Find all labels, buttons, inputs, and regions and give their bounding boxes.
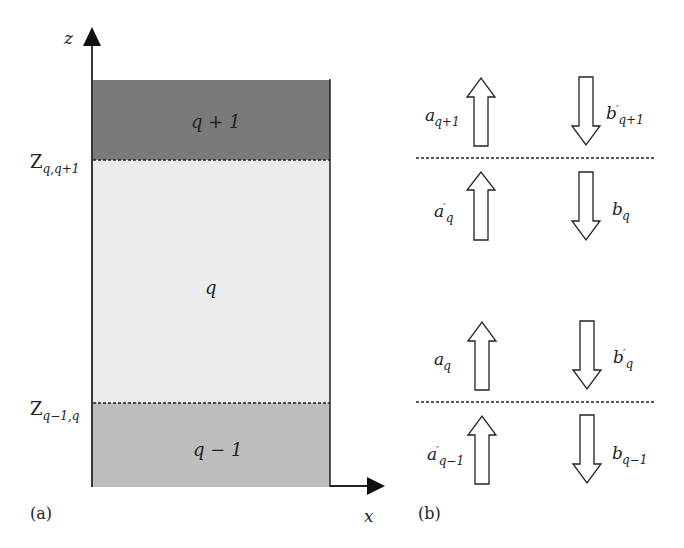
diagram-canvas bbox=[0, 0, 684, 548]
wave-subscript: q bbox=[446, 211, 454, 225]
wave-subscript: q+1 bbox=[434, 115, 459, 129]
label-b-q-minus-1: bq−1 bbox=[612, 444, 647, 466]
arrow-down-b-prime-q-icon bbox=[573, 321, 601, 389]
x-axis-arrowhead-icon bbox=[367, 477, 385, 495]
arrow-up-a-prime-q-minus-1-icon bbox=[468, 416, 496, 484]
wave-subscript: q bbox=[443, 359, 451, 373]
layer-label-q-plus-1: q + 1 bbox=[191, 113, 241, 131]
wave-subscript: q+1 bbox=[618, 113, 643, 127]
layer-label-q-minus-1: q − 1 bbox=[193, 441, 243, 459]
panel-b-caption: (b) bbox=[418, 506, 441, 522]
arrow-up-a-prime-q-icon bbox=[467, 172, 495, 240]
interface-symbol: Z bbox=[30, 398, 43, 419]
z-axis-arrowhead-icon bbox=[83, 27, 101, 46]
z-axis-label: z bbox=[64, 30, 73, 47]
interface-subscript: q−1,q bbox=[43, 409, 80, 423]
interface-label-upper: Zq,q+1 bbox=[30, 153, 79, 175]
label-b-q: bq bbox=[612, 200, 630, 222]
label-a-prime-q-minus-1: a′q−1 bbox=[427, 445, 464, 467]
interface-subscript: q,q+1 bbox=[43, 162, 80, 176]
panel-a-caption: (a) bbox=[30, 506, 52, 522]
label-b-prime-q-plus-1: b′q+1 bbox=[606, 104, 644, 126]
wave-subscript: q bbox=[622, 209, 630, 223]
arrow-down-b-q-minus-1-icon bbox=[573, 415, 601, 483]
x-axis-label: x bbox=[364, 508, 374, 525]
label-b-prime-q: b′q bbox=[613, 348, 633, 370]
label-a-q: aq bbox=[434, 350, 451, 372]
wave-subscript: q−1 bbox=[622, 453, 647, 467]
arrow-down-b-prime-q-plus-1-icon bbox=[572, 77, 600, 145]
label-a-q-plus-1: aq+1 bbox=[425, 106, 460, 128]
arrow-up-a-q-icon bbox=[468, 322, 496, 390]
layer-label-q: q bbox=[205, 279, 217, 297]
arrow-down-b-q-icon bbox=[572, 172, 600, 240]
wave-subscript: q−1 bbox=[439, 454, 464, 468]
wave-subscript: q bbox=[625, 357, 633, 371]
arrow-up-a-q-plus-1-icon bbox=[467, 78, 495, 146]
label-a-prime-q: a′q bbox=[434, 202, 453, 224]
interface-symbol: Z bbox=[30, 151, 43, 172]
interface-label-lower: Zq−1,q bbox=[30, 400, 79, 422]
x-axis bbox=[330, 477, 385, 495]
